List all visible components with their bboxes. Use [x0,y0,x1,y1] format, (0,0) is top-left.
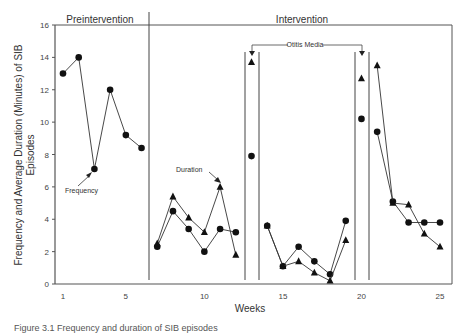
annotation-otitis-media: Otitis Media [287,41,324,48]
y-tick-label: 8 [45,151,50,160]
circle-marker [185,226,192,233]
circle-marker [75,54,82,61]
circle-marker [248,153,255,160]
circle-marker [123,132,130,139]
circle-marker [437,219,444,226]
circle-marker [232,229,239,236]
triangle-marker [232,251,239,258]
y-tick-label: 6 [45,183,50,192]
phase-label-intervention: Intervention [276,14,328,25]
triangle-marker [248,58,255,65]
phase-label-preintervention: Preintervention [66,14,133,25]
x-tick-label: 15 [278,292,287,301]
circle-marker [358,116,365,123]
circle-marker [405,219,412,226]
series-line [267,226,346,281]
y-axis-title-line1: Frequency and Average Duration (Minutes)… [13,44,24,265]
x-tick-label: 5 [124,292,129,301]
circle-marker [60,70,67,77]
y-tick-label: 0 [45,280,50,289]
x-tick-label: 1 [61,292,66,301]
triangle-marker [358,74,365,81]
series-line [63,57,142,169]
triangle-marker [374,61,381,68]
triangle-marker [217,183,224,190]
triangle-marker [311,269,318,276]
annotation-duration: Duration [176,166,203,173]
x-axis-title: Weeks [235,303,265,314]
triangle-marker [201,228,208,235]
circle-marker [91,166,98,173]
y-tick-label: 4 [45,215,50,224]
y-tick-label: 12 [40,86,49,95]
arrow-head-icon [249,51,255,56]
data-series [60,54,444,283]
y-tick-label: 10 [40,118,49,127]
circle-marker [138,145,145,152]
x-tick-label: 25 [436,292,445,301]
annotation-frequency: Frequency [65,187,99,195]
y-axis-title-line2: Episodes [25,134,36,175]
circle-marker [311,258,318,265]
circle-marker [107,86,114,93]
series-line [267,221,346,274]
series-frequency [60,54,444,278]
annotations: Preintervention Intervention Otitis Medi… [13,14,365,314]
circle-marker [374,129,381,136]
x-tick-label: 10 [200,292,209,301]
y-tick-label: 14 [40,53,49,62]
circle-marker [295,243,302,250]
y-tick-label: 16 [40,21,49,30]
arrow-head-icon [86,172,92,178]
x-tick-label: 20 [357,292,366,301]
arrow-head-icon [359,51,365,56]
figure-caption: Figure 3.1 Frequency and duration of SIB… [14,323,218,333]
triangle-marker [437,243,444,250]
circle-marker [421,219,428,226]
series-line [157,211,236,251]
triangle-marker [342,236,349,243]
circle-marker [217,226,224,233]
circle-marker [201,248,208,255]
triangle-marker [327,277,334,284]
y-tick-label: 2 [45,248,50,257]
axes: 02468101214161510152025 [40,21,452,301]
phase-lines [149,12,369,280]
triangle-marker [295,257,302,264]
circle-marker [342,218,349,225]
triangle-marker [421,230,428,237]
triangle-marker [169,193,176,200]
circle-marker [170,208,177,215]
